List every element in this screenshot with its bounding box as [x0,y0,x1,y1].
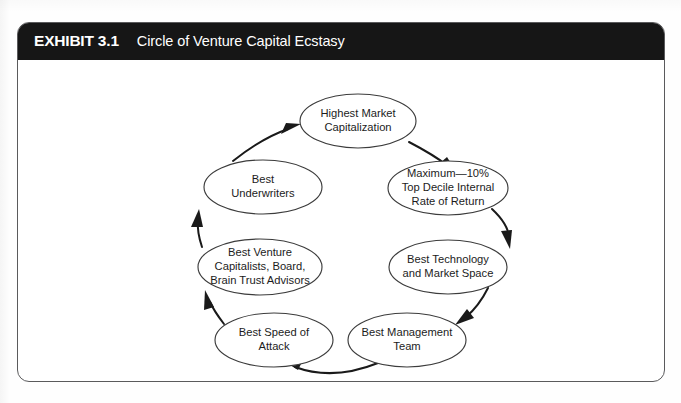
node-best-underwriters[interactable]: Best Underwriters [204,160,322,214]
arrow-maximum-top-decile-irr-to-best-technology-and-market-space [492,209,512,249]
node-label-line-1: Best Speed of [239,326,310,338]
cycle-diagram-svg: Highest Market Capitalization Maximum—10… [18,61,665,382]
node-label-line-2: and Market Space [403,267,494,279]
exhibit-number-label: EXHIBIT 3.1 [34,32,119,50]
node-label-line-2: Underwriters [231,187,295,199]
node-label-line-1: Best Technology [407,253,489,265]
node-label-line-1: Highest Market [320,107,396,119]
node-label-line-2: Top Decile Internal [402,181,495,193]
node-label-line-3: Brain Trust Advisors [210,274,310,286]
node-label-line-2: Team [393,340,420,352]
node-label-line-2: Capitalists, Board, [215,260,306,272]
node-highest-market-capitalization[interactable]: Highest Market Capitalization [300,94,416,148]
node-label-line-2: Attack [258,340,289,352]
exhibit-header-bar: EXHIBIT 3.1 Circle of Venture Capital Ec… [17,22,665,60]
node-best-technology-and-market-space[interactable]: Best Technology and Market Space [389,240,507,294]
node-label-line-1: Best Venture [228,246,292,258]
cycle-diagram: Highest Market Capitalization Maximum—10… [18,61,665,382]
exhibit-frame: EXHIBIT 3.1 Circle of Venture Capital Ec… [17,22,665,382]
node-label-line-1: Maximum—10% [407,167,489,179]
arrow-best-underwriters-to-highest-market-capitalization [233,123,301,161]
exhibit-title: Circle of Venture Capital Ecstasy [137,33,345,49]
node-label-line-1: Best Management [362,326,454,338]
scanned-page: EXHIBIT 3.1 Circle of Venture Capital Ec… [0,0,681,403]
node-best-speed-of-attack[interactable]: Best Speed of Attack [215,313,333,367]
node-label-line-3: Rate of Return [412,195,485,207]
node-maximum-top-decile-irr[interactable]: Maximum—10% Top Decile Internal Rate of … [388,161,508,215]
arrow-best-venture-capitalists-to-best-underwriters [191,209,203,247]
node-best-management-team[interactable]: Best Management Team [348,313,466,367]
node-label-line-2: Capitalization [324,121,391,133]
arrow-best-speed-of-attack-to-best-venture-capitalists [204,290,224,324]
node-label-line-1: Best [252,173,275,185]
node-best-venture-capitalists-board-brain-trust-advisors[interactable]: Best Venture Capitalists, Board, Brain T… [198,239,322,295]
